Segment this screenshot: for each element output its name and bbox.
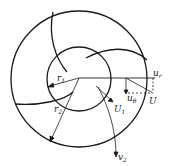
label-ur: ur [153, 68, 163, 79]
blade-top [51, 12, 67, 72]
outer-circle [11, 11, 147, 147]
label-utheta: uθ [127, 93, 137, 104]
v2-streamline [98, 87, 116, 155]
blade-left [15, 92, 73, 104]
label-r1: r1 [57, 73, 65, 84]
U-vector [126, 78, 153, 93]
label-U: U [149, 96, 157, 106]
label-v2: v2 [118, 152, 127, 163]
impeller-diagram: r1 r2 ur uθ U U1 v2 [0, 0, 170, 166]
label-U1: U1 [114, 104, 125, 115]
